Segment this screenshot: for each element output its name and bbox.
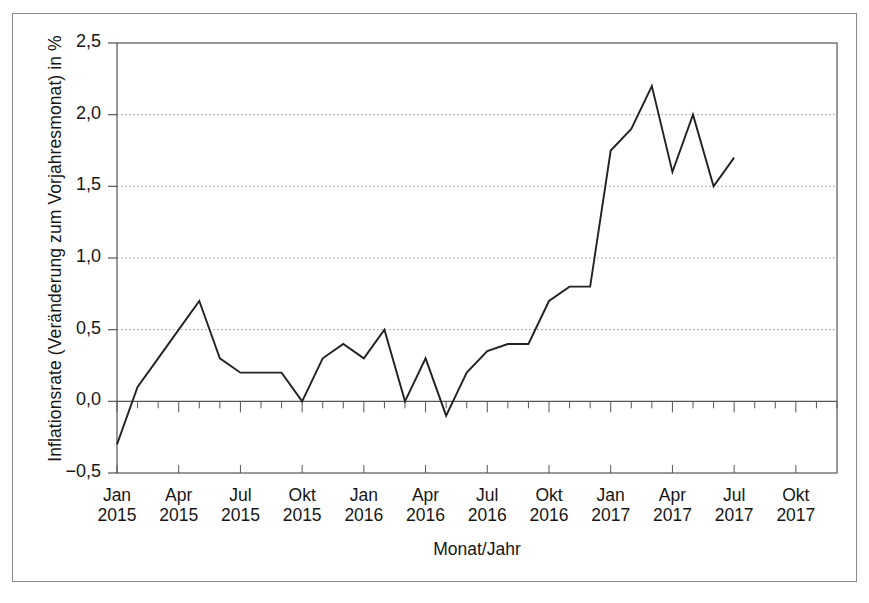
chart-figure: 2,52,01,51,00,50,0−0,5 Jan2015Apr2015Jul… bbox=[0, 0, 869, 603]
x-tick-year: 2015 bbox=[144, 505, 214, 525]
gridlines-group bbox=[117, 115, 837, 330]
y-tick-marks-group bbox=[108, 43, 117, 473]
x-tick-marks-group bbox=[117, 401, 837, 473]
x-tick-label: Okt2015 bbox=[267, 485, 337, 525]
x-tick-year: 2017 bbox=[576, 505, 646, 525]
x-tick-month: Jan bbox=[82, 485, 152, 505]
x-tick-month: Okt bbox=[514, 485, 584, 505]
x-tick-label: Apr2016 bbox=[391, 485, 461, 525]
inflation-rate-line bbox=[117, 86, 734, 444]
x-tick-month: Apr bbox=[144, 485, 214, 505]
x-tick-year: 2015 bbox=[82, 505, 152, 525]
x-tick-month: Jul bbox=[699, 485, 769, 505]
x-tick-year: 2016 bbox=[514, 505, 584, 525]
x-tick-month: Jan bbox=[329, 485, 399, 505]
x-tick-year: 2017 bbox=[699, 505, 769, 525]
x-tick-label: Apr2017 bbox=[637, 485, 707, 525]
x-tick-year: 2015 bbox=[205, 505, 275, 525]
x-tick-label: Jul2015 bbox=[205, 485, 275, 525]
x-tick-year: 2017 bbox=[761, 505, 831, 525]
x-tick-label: Jul2017 bbox=[699, 485, 769, 525]
y-axis-title: Inflationsrate (Veränderung zum Vorjahre… bbox=[45, 14, 66, 484]
x-tick-label: Jan2017 bbox=[576, 485, 646, 525]
x-tick-label: Jan2015 bbox=[82, 485, 152, 525]
x-tick-month: Okt bbox=[267, 485, 337, 505]
x-tick-month: Apr bbox=[637, 485, 707, 505]
x-tick-year: 2017 bbox=[637, 505, 707, 525]
x-tick-year: 2016 bbox=[329, 505, 399, 525]
x-tick-month: Apr bbox=[391, 485, 461, 505]
x-axis-title: Monat/Jahr bbox=[117, 539, 837, 560]
x-tick-label: Okt2017 bbox=[761, 485, 831, 525]
x-tick-month: Okt bbox=[761, 485, 831, 505]
x-tick-year: 2016 bbox=[391, 505, 461, 525]
x-tick-label: Jan2016 bbox=[329, 485, 399, 525]
x-tick-year: 2016 bbox=[452, 505, 522, 525]
x-tick-month: Jan bbox=[576, 485, 646, 505]
x-tick-month: Jul bbox=[205, 485, 275, 505]
x-tick-label: Jul2016 bbox=[452, 485, 522, 525]
x-tick-label: Okt2016 bbox=[514, 485, 584, 525]
x-tick-month: Jul bbox=[452, 485, 522, 505]
x-tick-year: 2015 bbox=[267, 505, 337, 525]
x-tick-label: Apr2015 bbox=[144, 485, 214, 525]
